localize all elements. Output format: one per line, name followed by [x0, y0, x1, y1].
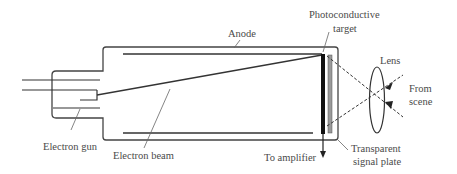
label-anode: Anode — [228, 28, 256, 39]
transparent-signal-plate — [328, 55, 332, 133]
label-electron-gun: Electron gun — [43, 141, 98, 152]
leader-target — [323, 32, 329, 52]
amplifier-arrow-icon — [320, 151, 326, 158]
leader-electron-beam — [144, 89, 170, 148]
tube-envelope — [52, 47, 338, 140]
photoconductive-target — [321, 54, 325, 134]
leader-signal-plate — [337, 139, 348, 150]
label-electron-beam: Electron beam — [113, 150, 174, 161]
label-from-scene-2: scene — [409, 96, 433, 107]
label-lens: Lens — [380, 55, 400, 66]
leader-electron-gun — [71, 109, 80, 130]
label-from-scene-1: From — [409, 83, 432, 94]
electron-beam-line — [97, 55, 322, 95]
electron-gun-cathode — [80, 90, 97, 100]
label-photoconductive-target-2: target — [333, 23, 357, 34]
label-transparent-signal-plate-1: Transparent — [351, 143, 401, 154]
label-to-amplifier: To amplifier — [264, 152, 317, 163]
label-photoconductive-target-1: Photoconductive — [309, 9, 380, 20]
label-transparent-signal-plate-2: signal plate — [353, 156, 401, 167]
vidicon-diagram: Anode Photoconductive target Lens From s… — [0, 0, 457, 174]
